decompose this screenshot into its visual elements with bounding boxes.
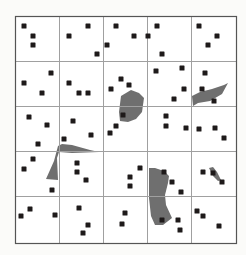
- point-marker: [62, 137, 67, 142]
- point-marker: [132, 34, 137, 39]
- point-marker: [67, 81, 72, 86]
- point-marker: [31, 43, 36, 48]
- point-marker: [31, 157, 36, 162]
- point-marker: [211, 171, 216, 176]
- point-marker: [203, 71, 208, 76]
- point-marker: [206, 43, 211, 48]
- point-marker: [81, 231, 86, 236]
- point-marker: [105, 43, 110, 48]
- point-marker: [212, 99, 217, 104]
- point-marker: [121, 113, 126, 118]
- point-marker: [179, 190, 184, 195]
- point-marker: [71, 119, 76, 124]
- point-marker: [160, 218, 165, 223]
- point-marker: [89, 133, 94, 138]
- point-marker: [172, 97, 177, 102]
- point-marker: [178, 228, 183, 233]
- point-marker: [138, 166, 143, 171]
- point-marker: [114, 24, 119, 29]
- point-marker: [222, 136, 227, 141]
- point-marker: [22, 24, 27, 29]
- point-marker: [86, 24, 91, 29]
- point-marker: [40, 91, 45, 96]
- point-marker: [164, 114, 169, 119]
- point-marker: [22, 81, 27, 86]
- point-marker: [22, 167, 27, 172]
- point-marker: [154, 69, 159, 74]
- point-marker: [50, 188, 55, 193]
- point-marker: [95, 52, 100, 57]
- plot-area: [15, 16, 236, 243]
- point-marker: [195, 209, 200, 214]
- point-marker: [176, 218, 181, 223]
- point-marker: [217, 224, 222, 229]
- point-marker: [213, 126, 218, 131]
- point-marker: [75, 170, 80, 175]
- point-marker: [170, 180, 175, 185]
- point-marker: [45, 123, 50, 128]
- point-marker: [162, 170, 167, 175]
- point-marker: [146, 34, 151, 39]
- point-marker: [67, 34, 72, 39]
- point-marker: [49, 71, 54, 76]
- point-marker: [36, 142, 41, 147]
- point-marker: [155, 24, 160, 29]
- point-marker: [77, 206, 82, 211]
- point-marker: [164, 124, 169, 129]
- point-marker: [160, 52, 165, 57]
- point-marker: [180, 66, 185, 71]
- point-marker: [27, 115, 32, 120]
- point-marker: [119, 77, 124, 82]
- point-marker: [86, 91, 91, 96]
- point-marker: [200, 87, 205, 92]
- point-marker: [201, 170, 206, 175]
- point-marker: [128, 175, 133, 180]
- point-marker: [19, 214, 24, 219]
- point-marker: [127, 83, 132, 88]
- point-marker: [220, 180, 225, 185]
- point-marker: [215, 34, 220, 39]
- quadrat-grid-diagram: [0, 0, 246, 255]
- point-marker: [184, 126, 189, 131]
- point-marker: [28, 207, 33, 212]
- point-marker: [77, 91, 82, 96]
- point-marker: [84, 178, 89, 183]
- point-marker: [109, 87, 114, 92]
- point-marker: [201, 214, 206, 219]
- point-marker: [75, 161, 80, 166]
- point-marker: [123, 211, 128, 216]
- point-marker: [182, 87, 187, 92]
- point-marker: [31, 34, 36, 39]
- point-marker: [197, 24, 202, 29]
- point-marker: [120, 222, 125, 227]
- point-marker: [108, 131, 113, 136]
- quadrat-figure: [0, 0, 246, 255]
- point-marker: [86, 223, 91, 228]
- point-marker: [128, 184, 133, 189]
- point-marker: [114, 124, 119, 129]
- point-marker: [53, 213, 58, 218]
- point-marker: [197, 127, 202, 132]
